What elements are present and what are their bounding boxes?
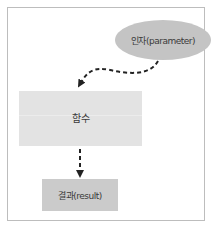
parameter-label: 인자(parameter) (115, 34, 211, 47)
parameter-to-function-arrow (80, 61, 158, 84)
